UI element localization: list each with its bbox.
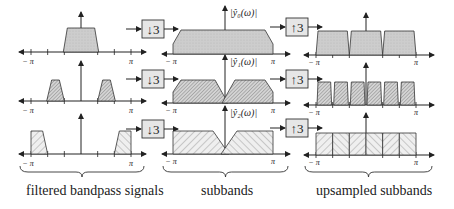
upsampled-2-image-5: [399, 133, 416, 155]
band-1-spectrum-pos: [98, 80, 116, 101]
upsampler-1-label: ↑3: [291, 72, 304, 87]
middle-pi-label-2: π: [271, 157, 276, 166]
upsampler-0-label: ↑3: [291, 20, 304, 35]
subband-2-spectrum-left: [173, 131, 229, 154]
subband-2-spectrum-right: [221, 131, 273, 154]
right-neg-pi-label-0: − π: [308, 58, 320, 67]
right-pi-label-0: π: [414, 58, 419, 67]
left-neg-pi-label-1: − π: [22, 106, 34, 115]
left-neg-pi-label-0: − π: [22, 57, 34, 66]
upsampled-2-image-4: [383, 133, 400, 155]
upsampler-2-label: ↑3: [291, 121, 304, 136]
upsampled-1-image-1: [334, 82, 349, 105]
left-pi-label-2: π: [129, 159, 134, 168]
caption-upsampled-subbands: upsampled subbands: [316, 183, 432, 199]
subband-0-spectrum: [173, 30, 273, 54]
right-pi-label-2: π: [414, 158, 419, 167]
right-pi-label-1: π: [414, 108, 419, 117]
middle-pi-label-0: π: [271, 57, 276, 66]
band-1-spectrum-neg: [47, 80, 65, 101]
band-2-spectrum-pos: [114, 131, 131, 154]
left-pi-label-0: π: [129, 57, 134, 66]
left-neg-pi-label-2: − π: [22, 159, 34, 168]
upsampled-1-image-2: [350, 82, 365, 105]
middle-neg-pi-label-2: − π: [165, 157, 177, 166]
band-2-spectrum-neg: [31, 131, 48, 154]
brace-upsampled: [305, 166, 432, 177]
middle-neg-pi-label-0: − π: [165, 57, 177, 66]
upsampled-2-image-3: [366, 133, 383, 155]
subband-label-1: |ŷ₁(ω)|: [230, 56, 257, 68]
diagram-canvas: − ππ− ππ− ππ↓3↓3↓3− ππ|ŷ₀(ω)|− ππ|ŷ₁(ω)|…: [0, 0, 454, 209]
upsampled-0-image-1: [349, 31, 382, 55]
upsampled-2-image-1: [333, 133, 350, 155]
subband-label-0: |ŷ₀(ω)|: [230, 7, 257, 19]
downsampler-2-label: ↓3: [147, 122, 160, 137]
band-0-spectrum: [63, 28, 98, 52]
middle-neg-pi-label-1: − π: [165, 106, 177, 115]
caption-subbands: subbands: [201, 183, 253, 199]
upsampled-0-image-2: [383, 31, 416, 55]
upsampled-1-image-0: [317, 82, 332, 105]
downsampler-0-label: ↓3: [147, 22, 160, 37]
brace-filtered: [20, 166, 144, 177]
right-neg-pi-label-2: − π: [308, 158, 320, 167]
right-neg-pi-label-1: − π: [308, 108, 320, 117]
left-pi-label-1: π: [129, 106, 134, 115]
upsampled-2-image-2: [349, 133, 366, 155]
subband-label-2: |ŷ₂(ω)|: [230, 107, 257, 119]
subband-1-spectrum-right: [222, 80, 273, 103]
downsampler-1-label: ↓3: [147, 72, 160, 87]
upsampled-0-image-0: [316, 31, 349, 55]
brace-subbands: [163, 166, 288, 177]
middle-pi-label-1: π: [271, 106, 276, 115]
filter-bank-diagram: − ππ− ππ− ππ↓3↓3↓3− ππ|ŷ₀(ω)|− ππ|ŷ₁(ω)|…: [0, 0, 454, 209]
subband-1-spectrum-left: [173, 80, 228, 103]
caption-filtered-bandpass-signals: filtered bandpass signals: [26, 183, 164, 199]
upsampled-1-image-3: [367, 82, 382, 105]
upsampled-1-image-5: [400, 82, 415, 105]
upsampled-2-image-0: [316, 133, 333, 155]
upsampled-1-image-4: [384, 82, 399, 105]
